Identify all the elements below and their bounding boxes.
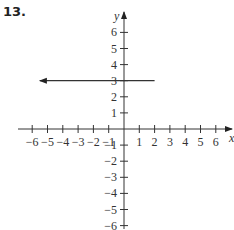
x-tick-label: 6 — [213, 135, 219, 149]
y-tick-label: −4 — [104, 186, 117, 200]
y-tick-label: 4 — [111, 58, 117, 72]
y-tick-label: −6 — [104, 219, 117, 230]
y-tick-label: −2 — [104, 154, 117, 168]
axis-ticks: −6−5−4−3−2−1123456−6−5−4−3−2−1123456 — [26, 25, 219, 230]
x-axis-label: x — [228, 131, 234, 145]
y-tick-label: −3 — [104, 170, 117, 184]
x-tick-label: 2 — [152, 135, 158, 149]
x-tick-label: 4 — [182, 135, 188, 149]
x-tick-label: −2 — [87, 135, 100, 149]
x-tick-label: −5 — [41, 135, 54, 149]
y-axis-label: y — [113, 9, 120, 23]
x-tick-label: 3 — [167, 135, 173, 149]
x-tick-label: 5 — [198, 135, 204, 149]
y-tick-label: 6 — [111, 25, 117, 39]
x-tick-label: −4 — [56, 135, 69, 149]
axes: xy — [18, 9, 234, 229]
y-tick-label: 5 — [111, 42, 117, 56]
coordinate-plane: xy −6−5−4−3−2−1123456−6−5−4−3−2−1123456 — [0, 0, 234, 230]
x-tick-label: 1 — [136, 135, 142, 149]
y-tick-label: −1 — [104, 138, 117, 152]
x-tick-label: −6 — [26, 135, 39, 149]
y-tick-label: 1 — [111, 106, 117, 120]
x-tick-label: −3 — [72, 135, 85, 149]
y-tick-label: −5 — [104, 203, 117, 217]
y-tick-label: 2 — [111, 90, 117, 104]
